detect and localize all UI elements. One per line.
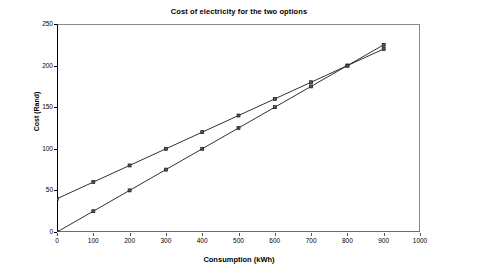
x-tick-mark-200 bbox=[130, 233, 131, 236]
data-point-marker bbox=[346, 64, 349, 67]
x-tick-label-400: 400 bbox=[187, 237, 217, 244]
x-tick-mark-100 bbox=[93, 233, 94, 236]
x-tick-label-200: 200 bbox=[115, 237, 145, 244]
x-tick-label-1000: 1000 bbox=[405, 237, 435, 244]
x-axis-title: Consumption (kWh) bbox=[0, 255, 478, 264]
series-line-2 bbox=[57, 45, 384, 232]
x-tick-mark-1000 bbox=[420, 233, 421, 236]
data-point-marker bbox=[273, 97, 276, 100]
x-tick-label-800: 800 bbox=[332, 237, 362, 244]
series-line-1 bbox=[57, 49, 384, 199]
chart-container: Cost of electricity for the two options … bbox=[0, 0, 478, 273]
x-tick-label-600: 600 bbox=[260, 237, 290, 244]
data-point-marker bbox=[128, 164, 131, 167]
data-point-marker bbox=[273, 106, 276, 109]
x-tick-label-700: 700 bbox=[296, 237, 326, 244]
data-point-marker bbox=[382, 47, 385, 50]
data-point-marker bbox=[57, 197, 59, 200]
series-2 bbox=[57, 43, 385, 232]
x-tick-mark-0 bbox=[57, 233, 58, 236]
x-tick-mark-700 bbox=[311, 233, 312, 236]
data-point-marker bbox=[310, 81, 313, 84]
plot-series-layer bbox=[57, 24, 420, 232]
data-point-marker bbox=[164, 147, 167, 150]
y-axis-title: Cost (Rand) bbox=[33, 67, 40, 157]
x-tick-mark-400 bbox=[202, 233, 203, 236]
data-point-marker bbox=[201, 147, 204, 150]
x-tick-label-900: 900 bbox=[369, 237, 399, 244]
x-tick-mark-800 bbox=[347, 233, 348, 236]
data-point-marker bbox=[92, 210, 95, 213]
x-tick-label-100: 100 bbox=[78, 237, 108, 244]
x-tick-mark-600 bbox=[275, 233, 276, 236]
x-tick-label-500: 500 bbox=[224, 237, 254, 244]
data-point-marker bbox=[237, 127, 240, 130]
data-point-marker bbox=[382, 43, 385, 46]
data-point-marker bbox=[164, 168, 167, 171]
x-tick-mark-500 bbox=[239, 233, 240, 236]
x-tick-label-0: 0 bbox=[42, 237, 72, 244]
x-tick-mark-300 bbox=[166, 233, 167, 236]
data-point-marker bbox=[201, 131, 204, 134]
data-point-marker bbox=[57, 231, 59, 233]
series-1 bbox=[57, 47, 385, 200]
data-point-marker bbox=[92, 181, 95, 184]
data-point-marker bbox=[128, 189, 131, 192]
x-tick-mark-900 bbox=[384, 233, 385, 236]
data-point-marker bbox=[310, 85, 313, 88]
x-tick-label-300: 300 bbox=[151, 237, 181, 244]
data-point-marker bbox=[237, 114, 240, 117]
